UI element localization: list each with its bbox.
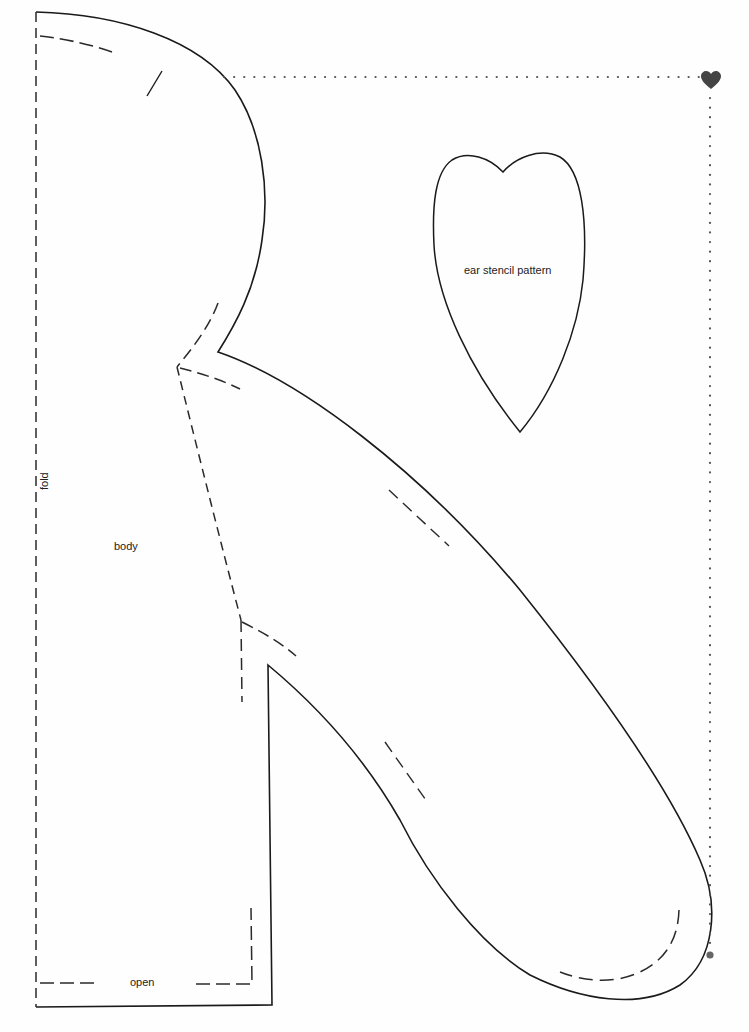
dot-icon (706, 951, 713, 958)
pattern-drawing (0, 0, 749, 1032)
heart-icon (701, 71, 721, 89)
seam-leg-inner (242, 622, 296, 656)
seam-back (389, 490, 449, 546)
seam-tail (385, 742, 428, 803)
body-label: body (114, 540, 138, 552)
fold-label: fold (38, 472, 50, 490)
open-label: open (130, 976, 154, 988)
seam-top (40, 36, 112, 52)
seam-neck-upper (177, 303, 218, 367)
ear-stencil-label: ear stencil pattern (464, 264, 551, 276)
seam-bottom-right (196, 908, 252, 984)
body-outline (36, 12, 712, 1007)
seam-neck-lower (180, 368, 240, 389)
ear-placement-mark (147, 71, 162, 96)
seam-foot (560, 910, 679, 980)
seam-body-side (177, 367, 241, 620)
seam-leg-vertical (241, 620, 242, 702)
ear-stencil-outline (433, 153, 584, 432)
pattern-page: fold body open ear stencil pattern (0, 0, 749, 1032)
